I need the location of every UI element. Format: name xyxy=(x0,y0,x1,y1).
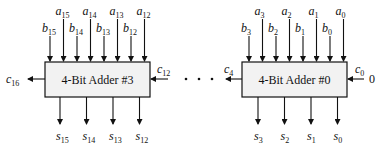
input-b13-label: b13 xyxy=(96,21,110,37)
carry-out-16-label: c16 xyxy=(6,72,19,88)
output-s2-label: s2 xyxy=(281,129,290,145)
input-b2-label: b2 xyxy=(268,21,278,37)
input-b0-label: b0 xyxy=(322,21,332,37)
input-a14-label: a14 xyxy=(83,4,97,20)
input-b15-label: b15 xyxy=(42,21,56,37)
input-a15-label: a15 xyxy=(56,4,70,20)
input-a3-label: a3 xyxy=(255,4,265,20)
input-b1-label: b1 xyxy=(295,21,305,37)
input-a0-label: a0 xyxy=(336,4,346,20)
adder-block-0: 4-Bit Adder #0 xyxy=(242,62,347,97)
input-a13-label: a13 xyxy=(110,4,124,20)
output-s3-label: s3 xyxy=(254,129,263,145)
adder-0-outputs: s3s2s1s0 xyxy=(254,97,342,145)
ellipsis-dots xyxy=(185,78,214,81)
adder-block-3: 4-Bit Adder #3 xyxy=(45,62,150,97)
input-b12-label: b12 xyxy=(123,21,137,37)
output-s14-label: s14 xyxy=(83,129,96,145)
output-s12-label: s12 xyxy=(136,129,149,145)
adder-0-label: 4-Bit Adder #0 xyxy=(259,73,331,87)
carry-in-0-label: c0 xyxy=(355,62,364,78)
input-b3-label: b3 xyxy=(241,21,251,37)
carry-in-0-value: 0 xyxy=(369,72,375,86)
input-a12-label: a12 xyxy=(137,4,151,20)
adder-diagram: 4-Bit Adder #3 4-Bit Adder #0 b15a15b14a… xyxy=(0,0,383,152)
adder-3-inputs: b15a15b14a14b13a13b12a12 xyxy=(42,4,151,61)
output-s15-label: s15 xyxy=(56,129,69,145)
carry-out-4-label: c4 xyxy=(224,62,233,78)
output-s13-label: s13 xyxy=(109,129,122,145)
input-b14-label: b14 xyxy=(69,21,83,37)
carry-in-12-label: c12 xyxy=(157,62,170,78)
adder-0-inputs: b3a3b2a2b1a1b0a0 xyxy=(241,4,346,61)
output-s1-label: s1 xyxy=(307,129,316,145)
adder-3-label: 4-Bit Adder #3 xyxy=(62,73,134,87)
output-s0-label: s0 xyxy=(334,129,343,145)
input-a2-label: a2 xyxy=(282,4,292,20)
input-a1-label: a1 xyxy=(309,4,319,20)
adder-3-outputs: s15s14s13s12 xyxy=(56,97,148,145)
